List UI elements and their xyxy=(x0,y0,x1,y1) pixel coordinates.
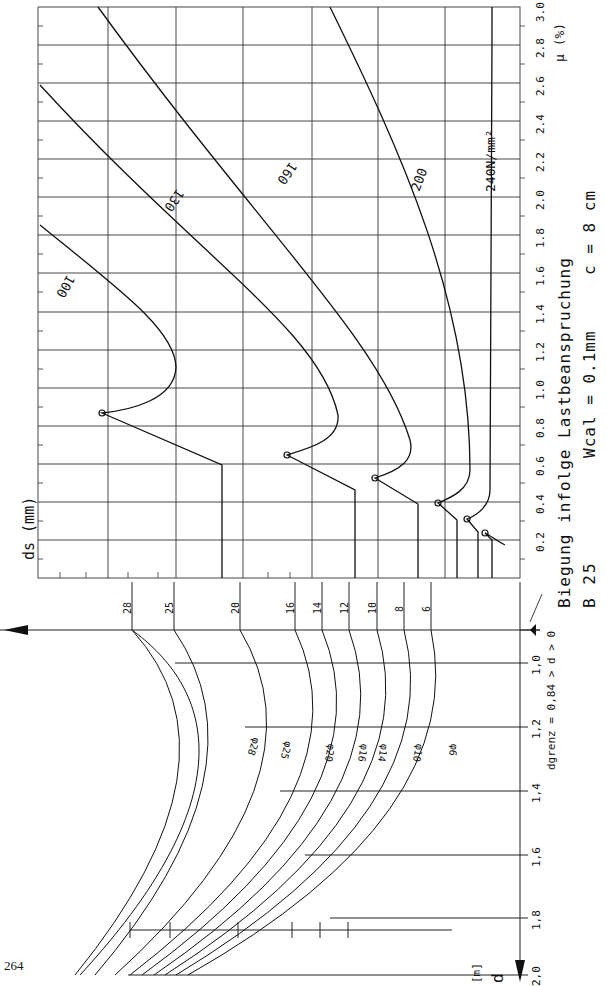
mu-axis-label: μ (%) xyxy=(552,23,567,62)
chart-title: Biegung infolge Lastbeanspruchung xyxy=(555,257,574,608)
dgrenz-marker-icon xyxy=(530,624,536,636)
mu-tick-0.8: 0.8 xyxy=(534,418,547,438)
d-tick-1.8: 1,8 xyxy=(530,910,543,930)
mu-tick-2.4: 2.4 xyxy=(534,114,547,134)
d-tick-1.2: 1,2 xyxy=(530,719,543,739)
ds-axis-label: ds (mm) xyxy=(20,497,38,560)
phi-curves xyxy=(75,630,436,975)
param-b25: B 25 xyxy=(580,561,599,608)
upper-curves xyxy=(40,7,505,578)
param-c: c = 8 cm xyxy=(580,190,599,275)
d-axis-label: d xyxy=(488,973,507,983)
ds-label-25: 25 xyxy=(164,602,175,614)
mu-tick-1.8: 1.8 xyxy=(534,228,547,248)
curve-label-240: 240N/mm² xyxy=(483,129,498,192)
lower-grid xyxy=(0,582,540,975)
mu-tick-0.2: 0.2 xyxy=(534,532,547,552)
mu-tick-1.0: 1.0 xyxy=(534,380,547,400)
mu-tick-0.4: 0.4 xyxy=(534,494,547,514)
ds-label-6: 6 xyxy=(421,606,432,612)
d-tick-1.0: 1,0 xyxy=(530,655,543,675)
dgrenz-pointer xyxy=(530,594,542,622)
phi-label-6: φ6 xyxy=(447,743,460,757)
arrow-left-icon xyxy=(4,625,28,635)
mu-tick-2.8: 2.8 xyxy=(534,38,547,58)
ds-label-12: 12 xyxy=(339,602,350,614)
dgrenz-label: dgrenz = 0,84 > d > 0 xyxy=(545,631,558,770)
mu-tick-2.0: 2.0 xyxy=(534,190,547,210)
ds-label-16: 16 xyxy=(285,602,296,614)
ds-label-14: 14 xyxy=(312,602,323,614)
d-tick-1.6: 1,6 xyxy=(530,847,543,867)
mu-tick-3.0: 3.0 xyxy=(534,2,547,22)
upper-grid xyxy=(38,7,525,578)
ds-label-28: 28 xyxy=(122,602,133,614)
ds-label-10: 10 xyxy=(367,602,378,614)
mu-tick-1.2: 1.2 xyxy=(534,342,547,362)
page-number: 264 xyxy=(4,958,24,974)
param-wcal: Wcal = 0.1mm xyxy=(580,330,599,458)
mu-tick-1.6: 1.6 xyxy=(534,266,547,286)
d-unit-label: [m] xyxy=(470,963,483,983)
arrow-down-icon xyxy=(515,960,525,982)
mu-tick-1.4: 1.4 xyxy=(534,304,547,324)
ds-label-20: 20 xyxy=(230,602,241,614)
d-tick-1.4: 1,4 xyxy=(530,783,543,803)
d-tick-2.0: 2,0 xyxy=(530,966,543,986)
mu-tick-2.2: 2.2 xyxy=(534,152,547,172)
mu-tick-0.6: 0.6 xyxy=(534,456,547,476)
mu-tick-2.6: 2.6 xyxy=(534,76,547,96)
ds-label-8: 8 xyxy=(394,606,405,612)
